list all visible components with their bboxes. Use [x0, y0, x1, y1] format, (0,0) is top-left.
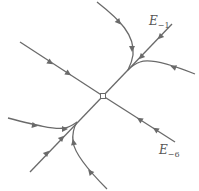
trajectory-lower-bottom: [73, 122, 107, 189]
trajectory-lower-left: [8, 118, 77, 128]
arrow-icon: [43, 149, 51, 157]
equilibrium-point: [101, 94, 106, 99]
arrow-icon: [64, 69, 72, 77]
phase-portrait: E−1 E−6: [0, 0, 199, 191]
arrow-icon: [135, 115, 143, 123]
arrow-icon: [151, 125, 159, 133]
arrow-icon: [129, 46, 135, 52]
trajectory-upper-right: [128, 61, 195, 74]
label-e-minus-1: E−1: [149, 14, 170, 30]
eigenline-e-minus-1-lower: [30, 96, 103, 172]
label-e-minus-6: E−6: [159, 143, 180, 159]
eigenline-e-minus-6-left: [20, 42, 103, 96]
trajectory-upper-top: [97, 2, 133, 70]
arrow-icon: [70, 139, 77, 146]
arrow-icon: [169, 63, 177, 71]
